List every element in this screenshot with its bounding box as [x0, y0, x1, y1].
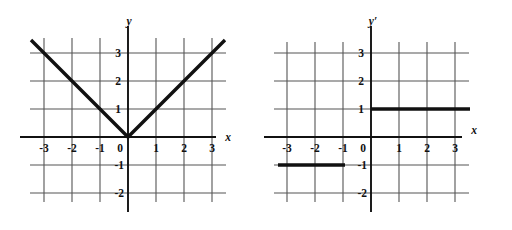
x-tick-label--1: -1 — [338, 142, 348, 154]
x-tick-label-0: 0 — [117, 142, 123, 154]
x-axis-label: x — [224, 131, 231, 143]
x-tick-label-2: 2 — [424, 142, 430, 154]
y-tick-label--2: -2 — [114, 187, 124, 199]
x-tick-label--3: -3 — [39, 142, 49, 154]
y-tick-label-3: 3 — [358, 47, 364, 59]
absolute-value-graph-svg: -3 -2 -1 0 1 2 3 3 2 1 -1 -2 y x — [0, 0, 256, 230]
x-tick-label--2: -2 — [67, 142, 77, 154]
chart-panel-right: -3 -2 -1 0 1 2 3 3 2 1 -1 -2 y′ x — [256, 0, 512, 230]
figure-container: -3 -2 -1 0 1 2 3 3 2 1 -1 -2 y x — [0, 0, 512, 230]
y-tick-label--1: -1 — [114, 159, 124, 171]
x-tick-label-2: 2 — [181, 142, 187, 154]
x-tick-label-1: 1 — [153, 142, 159, 154]
x-tick-label-3: 3 — [452, 142, 458, 154]
x-axis-label: x — [470, 124, 477, 136]
x-tick-label-1: 1 — [396, 142, 402, 154]
x-tick-label--3: -3 — [282, 142, 292, 154]
x-tick-label-0: 0 — [360, 142, 366, 154]
y-tick-label-2: 2 — [115, 75, 121, 87]
y-tick-label-3: 3 — [115, 47, 121, 59]
x-tick-label--1: -1 — [95, 142, 105, 154]
chart-panel-left: -3 -2 -1 0 1 2 3 3 2 1 -1 -2 y x — [0, 0, 256, 230]
y-tick-label--1: -1 — [357, 159, 367, 171]
y-tick-label-1: 1 — [115, 103, 121, 115]
y-prime-axis-label: y′ — [367, 15, 377, 28]
y-tick-label--2: -2 — [357, 187, 367, 199]
y-tick-label-1: 1 — [358, 103, 364, 115]
y-axis-label: y — [124, 15, 132, 28]
x-tick-label--2: -2 — [310, 142, 320, 154]
derivative-step-graph-svg: -3 -2 -1 0 1 2 3 3 2 1 -1 -2 y′ x — [256, 0, 512, 230]
y-tick-label-2: 2 — [358, 75, 364, 87]
x-tick-label-3: 3 — [209, 142, 215, 154]
